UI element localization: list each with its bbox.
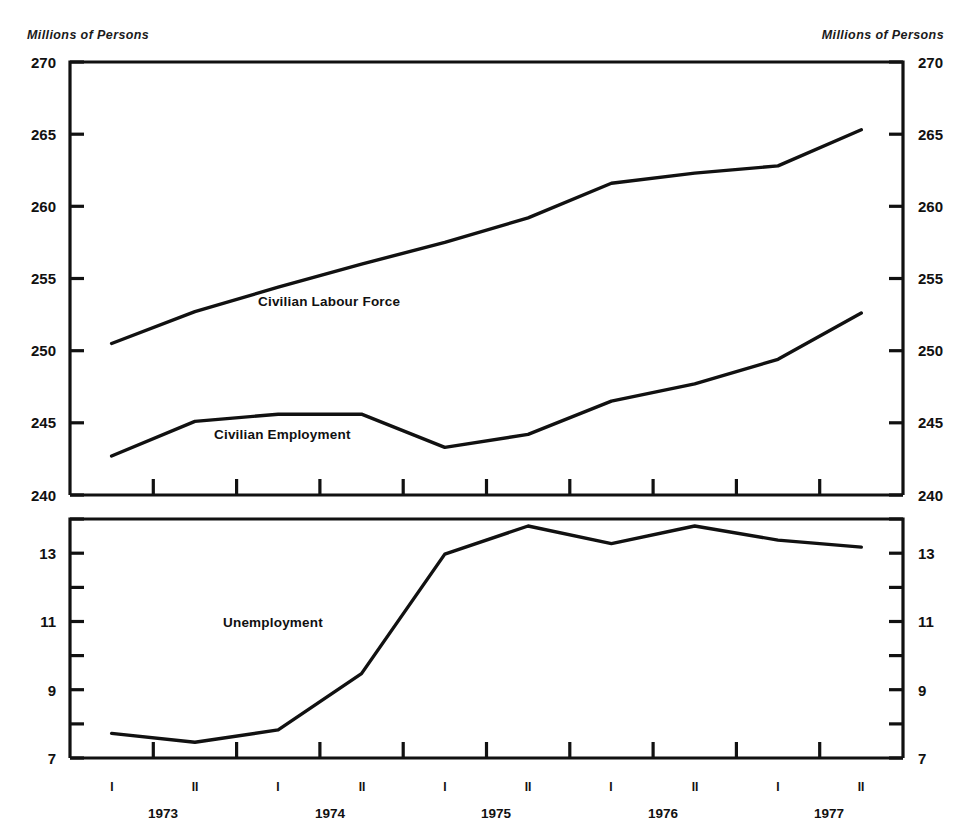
chart-svg — [0, 0, 969, 838]
lower-ylabel-right-7: 7 — [918, 750, 958, 767]
upper-ylabel-right-260: 260 — [918, 198, 958, 215]
xlabel-year-1976: 1976 — [633, 806, 693, 821]
upper-ylabel-left-265: 265 — [16, 126, 56, 143]
xlabel-period-1977-I: I — [758, 780, 798, 794]
annotation-unemployment: Unemployment — [223, 615, 323, 630]
xlabel-period-1976-II: II — [675, 780, 715, 794]
upper-ylabel-right-255: 255 — [918, 270, 958, 287]
upper-ylabel-right-240: 240 — [918, 487, 958, 504]
upper-ylabel-left-245: 245 — [16, 414, 56, 431]
lower-xtick-marks — [153, 742, 819, 758]
xlabel-period-1973-II: II — [175, 780, 215, 794]
lower-ylabel-right-13: 13 — [918, 545, 958, 562]
upper-ylabel-right-265: 265 — [918, 126, 958, 143]
lower-panel-frame — [70, 519, 903, 758]
xlabel-period-1975-II: II — [508, 780, 548, 794]
xlabel-period-1974-I: I — [258, 780, 298, 794]
line-civilian-labour-force — [112, 130, 862, 344]
xlabel-period-1975-I: I — [425, 780, 465, 794]
upper-ylabel-left-260: 260 — [16, 198, 56, 215]
lower-ytick-marks-right — [889, 553, 903, 724]
upper-ylabel-left-250: 250 — [16, 342, 56, 359]
upper-ytick-marks-left — [70, 134, 84, 423]
upper-ylabel-right-245: 245 — [918, 414, 958, 431]
upper-ylabel-left-240: 240 — [16, 487, 56, 504]
xlabel-year-1977: 1977 — [799, 806, 859, 821]
upper-ytick-marks-right — [889, 134, 903, 423]
line-unemployment — [112, 526, 862, 742]
upper-ylabel-right-250: 250 — [918, 342, 958, 359]
xlabel-period-1973-I: I — [92, 780, 132, 794]
annotation-civilian-labour-force: Civilian Labour Force — [258, 294, 400, 309]
xlabel-year-1974: 1974 — [300, 806, 360, 821]
xlabel-year-1975: 1975 — [466, 806, 526, 821]
upper-ylabel-left-255: 255 — [16, 270, 56, 287]
chart-canvas: Millions of Persons Millions of Persons — [0, 0, 969, 838]
upper-panel-frame — [70, 62, 903, 495]
lower-ylabel-right-9: 9 — [918, 682, 958, 699]
upper-xtick-marks — [153, 479, 819, 495]
xlabel-period-1974-II: II — [342, 780, 382, 794]
lower-ylabel-left-7: 7 — [16, 750, 56, 767]
lower-ylabel-left-13: 13 — [16, 545, 56, 562]
upper-ylabel-right-270: 270 — [918, 54, 958, 71]
lower-ylabel-left-9: 9 — [16, 682, 56, 699]
lower-ylabel-right-11: 11 — [918, 613, 958, 630]
upper-ylabel-left-270: 270 — [16, 54, 56, 71]
annotation-civilian-employment: Civilian Employment — [214, 427, 351, 442]
xlabel-period-1976-I: I — [591, 780, 631, 794]
xlabel-year-1973: 1973 — [133, 806, 193, 821]
lower-ytick-marks-left — [70, 553, 84, 724]
xlabel-period-1977-II: II — [841, 780, 881, 794]
lower-ylabel-left-11: 11 — [16, 613, 56, 630]
